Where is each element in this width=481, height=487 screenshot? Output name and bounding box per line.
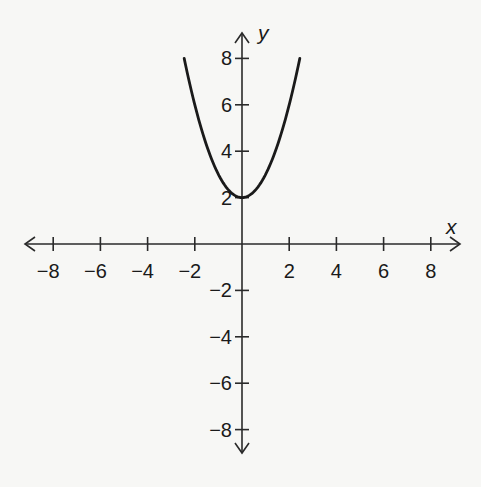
- y-tick-label: 6: [221, 94, 232, 116]
- x-tick-label: 6: [378, 260, 389, 282]
- coordinate-plane: −8−6−4−22468 8642−2−4−6−8 x y: [0, 0, 481, 487]
- y-tick-label: 2: [221, 187, 232, 209]
- y-tick-label: −2: [209, 279, 232, 301]
- x-tick-label: 2: [284, 260, 295, 282]
- x-tick-label: 4: [331, 260, 342, 282]
- x-tick-label: −2: [178, 260, 201, 282]
- y-tick-label: −4: [209, 326, 232, 348]
- x-tick-label: −6: [84, 260, 107, 282]
- y-tick-label: 8: [221, 47, 232, 69]
- y-tick-label: −6: [209, 372, 232, 394]
- x-tick-label: −4: [131, 260, 154, 282]
- axes: [25, 33, 460, 453]
- x-axis-label: x: [445, 215, 458, 238]
- y-tick-label: −8: [209, 419, 232, 441]
- x-tick-label: −8: [37, 260, 60, 282]
- x-tick-label: 8: [425, 260, 436, 282]
- y-tick-label: 4: [221, 140, 232, 162]
- x-tick-labels: −8−6−4−22468: [37, 260, 437, 282]
- y-axis-label: y: [256, 21, 270, 44]
